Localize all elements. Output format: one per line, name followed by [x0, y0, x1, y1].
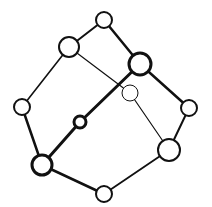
nodes-layer	[14, 12, 197, 202]
node-upper-left	[59, 37, 79, 57]
edge-upper-left-left	[22, 47, 69, 107]
node-left	[14, 99, 30, 115]
node-center	[74, 116, 86, 128]
node-right	[181, 100, 197, 116]
node-lower-left	[32, 155, 52, 175]
node-top	[96, 12, 112, 28]
node-upper-right	[129, 53, 151, 75]
edge-upper-left-inner	[69, 47, 130, 93]
node-bottom	[96, 186, 112, 202]
graph-svg	[0, 0, 212, 207]
graph-diagram	[0, 0, 212, 207]
node-lower-right	[158, 139, 180, 161]
node-inner	[122, 85, 138, 101]
